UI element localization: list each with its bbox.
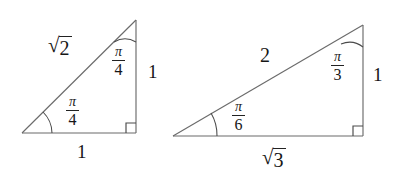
right-angle-marker-right — [353, 126, 363, 136]
left-triangle-hypotenuse-label: √ 2 — [48, 36, 72, 58]
pi-symbol: π — [113, 45, 124, 60]
pi-symbol: π — [332, 50, 343, 65]
right-triangle-base-side-label: √ 3 — [262, 148, 286, 170]
pi-symbol: π — [233, 100, 244, 115]
apex-angle-arc-left — [114, 39, 136, 42]
pi-symbol: π — [67, 95, 78, 110]
figure-root: √ 2 1 1 π 4 π 4 2 1 √ 3 π 3 π 6 — [0, 0, 394, 190]
right-triangle-base-angle-label: π 6 — [232, 100, 245, 133]
left-triangle-base-side-label: 1 — [77, 142, 87, 161]
base-angle-arc-right — [211, 113, 217, 136]
left-triangle-base-angle-label: π 4 — [66, 95, 79, 128]
right-angle-marker-left — [126, 123, 136, 133]
left-triangle-vertical-side-label: 1 — [148, 62, 158, 81]
base-angle-arc-left — [43, 112, 52, 133]
apex-angle-arc-right — [341, 42, 363, 47]
left-triangle-apex-angle-label: π 4 — [112, 45, 125, 78]
triangles-svg — [0, 0, 394, 190]
right-triangle-hypotenuse-label: 2 — [260, 45, 270, 65]
right-triangle-apex-angle-label: π 3 — [331, 50, 344, 83]
right-triangle-vertical-side-label: 1 — [373, 65, 383, 84]
